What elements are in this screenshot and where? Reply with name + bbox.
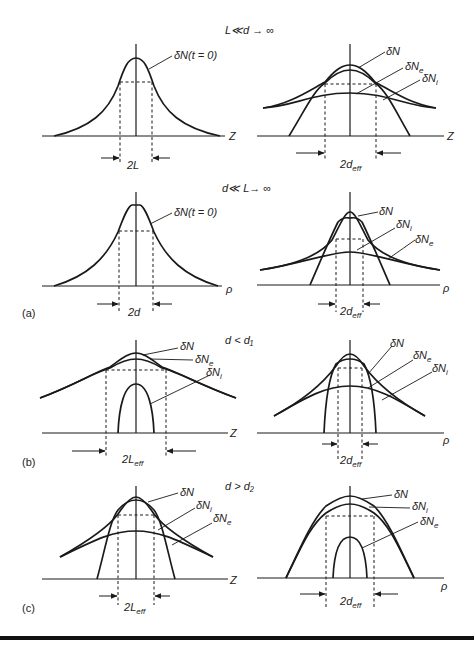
panel-row4-left: δN δNi δNe Z 2Leff (42, 486, 238, 616)
axis-label-rho: ρ (440, 580, 447, 592)
width-label-2Leff: 2Leff (123, 601, 146, 616)
label-dNe: δNe (415, 233, 434, 248)
label-dNe: δNe (420, 515, 439, 530)
panel-label-c: (c) (22, 602, 35, 614)
width-label-2L: 2L (126, 159, 139, 171)
bottom-rule (0, 636, 474, 640)
label-dN: δN (180, 340, 194, 352)
axis-label-rho: ρ (225, 283, 232, 295)
panel-row2-left: δN(t = 0) ρ 2d (42, 192, 232, 318)
panel-row4-right: δN δNi δNe ρ 2deff (257, 486, 447, 610)
width-label-2d: 2d (127, 306, 141, 318)
row4-title: d > d₂ (225, 480, 255, 492)
panel-row1-right: δN δNe δNi Z 2deff (257, 44, 455, 173)
label-dNi: δNi (432, 362, 448, 377)
panel-label-b: (b) (22, 456, 35, 468)
label-dNe: δNe (413, 349, 432, 364)
label-dN-t0: δN(t = 0) (174, 206, 217, 218)
row1-title: L≪d → ∞ (225, 24, 274, 36)
panel-row1-left: δN(t = 0) Z 2L (42, 44, 237, 171)
width-label-2deff: 2deff (339, 305, 362, 320)
row2-title: d≪ L→ ∞ (222, 182, 271, 194)
label-dN: δN (379, 205, 393, 217)
width-label-2deff: 2deff (339, 454, 362, 469)
label-dN: δN (394, 488, 408, 500)
label-dN-t0: δN(t = 0) (174, 49, 217, 61)
label-dNi: δNi (412, 500, 428, 515)
label-dN: δN (180, 486, 194, 498)
label-dNe: δNe (213, 512, 232, 527)
panel-row2-right: δN δNi δNe ρ 2deff (257, 192, 449, 320)
width-label-2Leff: 2Leff (121, 453, 144, 468)
panel-row3-right: δN δNe δNi ρ 2deff (257, 337, 449, 469)
label-dNi: δNi (206, 366, 222, 381)
axis-label-z: Z (229, 574, 238, 586)
axis-label-z: Z (229, 427, 238, 439)
figure-canvas: L≪d → ∞ d≪ L→ ∞ d < d₁ d > d₂ (a) (b) (c… (0, 0, 474, 649)
curve-dN-t0 (54, 58, 220, 136)
panel-row3-left: δN δNe δNi Z 2Leff (40, 340, 238, 468)
label-dN: δN (386, 45, 400, 57)
row3-title: d < d₁ (225, 334, 254, 346)
label-dNi: δNi (196, 499, 212, 514)
axis-label-rho: ρ (442, 434, 449, 446)
width-label-2deff: 2deff (339, 595, 362, 610)
axis-label-z: Z (228, 130, 237, 142)
axis-label-rho: ρ (442, 282, 449, 294)
label-dN: δN (390, 337, 404, 349)
width-label-2deff: 2deff (339, 158, 362, 173)
panel-label-a: (a) (22, 307, 35, 319)
label-dNi: δNi (422, 72, 438, 87)
label-dNi: δNi (396, 218, 412, 233)
axis-label-z: Z (446, 130, 455, 142)
